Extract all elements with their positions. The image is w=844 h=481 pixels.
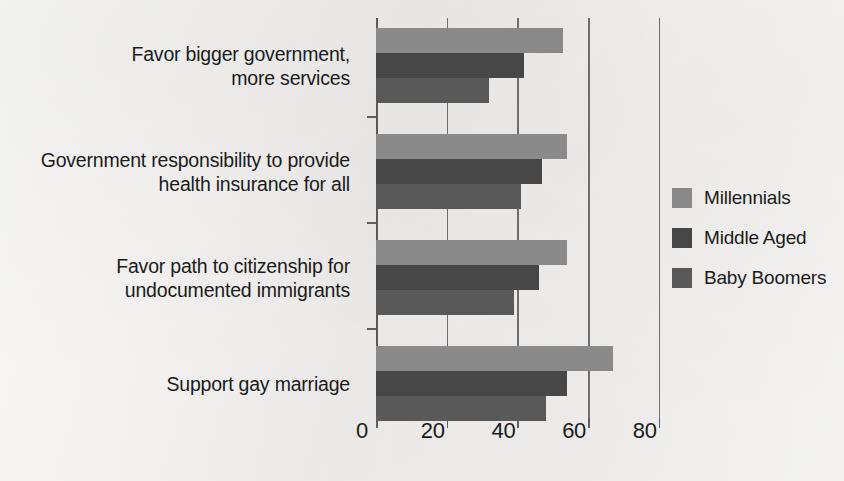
bar-group	[376, 28, 660, 103]
x-tick-label: 60	[562, 418, 586, 444]
x-axis-tick-labels: 020406080	[340, 418, 740, 458]
x-tick-label: 20	[421, 418, 445, 444]
legend-item[interactable]: Millennials	[672, 178, 832, 218]
category-tick-mark	[367, 116, 376, 118]
legend-label: Millennials	[704, 187, 791, 209]
bar-baby-boomers[interactable]	[376, 184, 521, 209]
legend-item[interactable]: Middle Aged	[672, 218, 832, 258]
category-label: Favor bigger government, more services	[132, 42, 350, 90]
bar-middle-aged[interactable]	[376, 371, 567, 396]
bar-middle-aged[interactable]	[376, 265, 539, 290]
bar-chart: Favor bigger government, more servicesGo…	[0, 0, 844, 481]
legend-swatch-icon	[672, 268, 692, 288]
x-tick-label: 0	[356, 418, 368, 444]
x-tick-label: 40	[491, 418, 515, 444]
legend-item[interactable]: Baby Boomers	[672, 258, 832, 298]
legend-swatch-icon	[672, 188, 692, 208]
bar-millennials[interactable]	[376, 346, 613, 371]
plot-area	[376, 18, 660, 418]
bar-group	[376, 240, 660, 315]
legend-swatch-icon	[672, 228, 692, 248]
category-label: Support gay marriage	[166, 372, 350, 396]
bar-millennials[interactable]	[376, 134, 567, 159]
category-tick-mark	[367, 328, 376, 330]
bar-middle-aged[interactable]	[376, 159, 542, 184]
category-axis-labels: Favor bigger government, more servicesGo…	[0, 0, 362, 424]
category-label: Government responsibility to provide hea…	[41, 148, 350, 196]
bar-millennials[interactable]	[376, 240, 567, 265]
bar-group	[376, 346, 660, 421]
bar-baby-boomers[interactable]	[376, 78, 489, 103]
bar-baby-boomers[interactable]	[376, 290, 514, 315]
category-label: Favor path to citizenship for undocument…	[116, 254, 350, 302]
legend-label: Middle Aged	[704, 227, 806, 249]
bar-group	[376, 134, 660, 209]
legend-label: Baby Boomers	[704, 267, 826, 289]
chart-legend: MillennialsMiddle AgedBaby Boomers	[672, 178, 832, 298]
bar-middle-aged[interactable]	[376, 53, 524, 78]
category-tick-mark	[367, 222, 376, 224]
bar-millennials[interactable]	[376, 28, 563, 53]
x-tick-label: 80	[633, 418, 657, 444]
